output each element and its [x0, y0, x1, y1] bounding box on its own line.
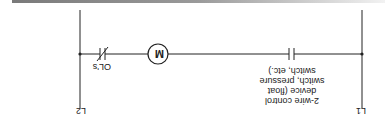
overload-contact-label: OL's — [93, 62, 111, 72]
coil-label: M — [155, 48, 164, 60]
control-device-line-2: device (float — [242, 86, 342, 96]
control-device-line-4: switch, etc.) — [242, 66, 342, 76]
control-device-label: 2-wire control device (float switch, pre… — [242, 66, 342, 106]
normally-open-contact-icon — [289, 48, 294, 60]
control-device-line-1: 2-wire control — [242, 96, 342, 106]
control-device-line-3: switch, pressure — [242, 76, 342, 86]
ladder-diagram-canvas: L1 L2 2-wire control device (float switc… — [0, 0, 385, 126]
label-l1: L1 — [356, 106, 366, 116]
header-bar — [12, 0, 385, 3]
ladder-diagram-svg — [0, 0, 385, 126]
rotated-diagram: L1 L2 2-wire control device (float switc… — [0, 0, 385, 126]
label-l2: L2 — [76, 106, 86, 116]
